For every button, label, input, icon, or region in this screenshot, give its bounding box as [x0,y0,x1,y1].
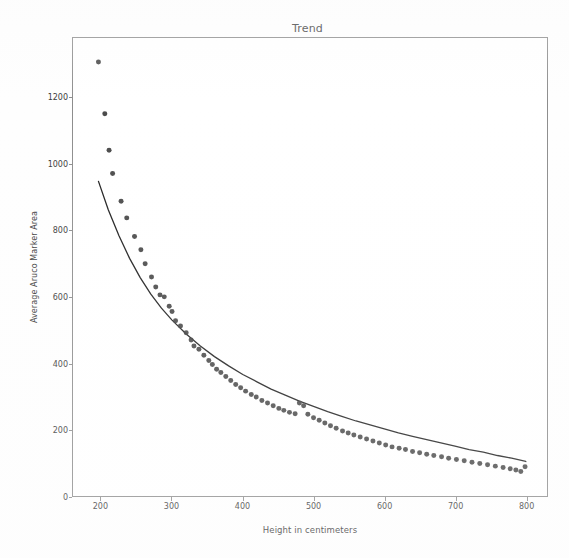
scatter-point [143,261,148,266]
scatter-point [501,465,506,470]
scatter-point [259,398,264,403]
scatter-point [184,330,189,335]
x-tick-mark [100,497,101,501]
x-tick-label: 800 [507,502,547,511]
scatter-point [351,432,356,437]
scatter-point [124,215,129,220]
scatter-point [470,460,475,465]
scatter-point [508,466,513,471]
scatter-point [370,438,375,443]
scatter-point [223,374,228,379]
y-axis-tick-labels: 020040060080010001200 [22,0,68,558]
y-tick-label: 400 [28,359,68,368]
y-tick-label: 1000 [28,159,68,168]
scatter-point [149,274,154,279]
scatter-point [196,347,201,352]
scatter-point [254,395,259,400]
scatter-point [439,454,444,459]
scatter-point [328,423,333,428]
scatter-point [311,415,316,420]
scatter-point [214,367,219,372]
scatter-point [233,382,238,387]
x-tick-label: 500 [294,502,334,511]
chart-figure: Trend Average Aruco Marker Area 02004006… [0,0,569,558]
scatter-point [218,370,223,375]
scatter-point [238,385,243,390]
scatter-point [446,456,451,461]
x-tick-mark [527,497,528,501]
scatter-point [477,461,482,466]
y-tick-mark [69,497,73,498]
scatter-point [383,442,388,447]
scatter-point [364,436,369,441]
scatter-point [162,294,167,299]
x-tick-label: 600 [365,502,405,511]
chart-title: Trend [0,22,569,35]
scatter-point [377,440,382,445]
x-tick-label: 200 [80,502,120,511]
scatter-point [424,452,429,457]
scatter-point [390,444,395,449]
scatter-point [110,171,115,176]
scatter-point [340,428,345,433]
scatter-point [301,403,306,408]
scatter-point [417,450,422,455]
scatter-point [189,338,194,343]
scatter-point [281,408,286,413]
x-axis-tick-labels: 200300400500600700800 [0,502,569,518]
chart-title-text: Trend [292,22,323,35]
y-tick-label: 1200 [28,93,68,102]
scatter-point [153,284,158,289]
plot-axes-frame [72,37,548,497]
scatter-point [485,462,490,467]
y-tick-label: 600 [28,293,68,302]
y-tick-label: 200 [28,426,68,435]
x-tick-mark [456,497,457,501]
x-tick-mark [385,497,386,501]
scatter-point [305,412,310,417]
x-tick-mark [243,497,244,501]
scatter-point [178,324,183,329]
scatter-point [518,469,523,474]
scatter-point [523,464,528,469]
scatter-point [201,353,206,358]
scatter-points-group [96,59,528,474]
scatter-point [431,453,436,458]
scatter-point [119,199,124,204]
x-tick-label: 700 [436,502,476,511]
scatter-point [228,378,233,383]
scatter-point [102,111,107,116]
scatter-point [334,426,339,431]
scatter-point [410,449,415,454]
x-tick-label: 300 [151,502,191,511]
scatter-point [462,458,467,463]
x-tick-label: 400 [223,502,263,511]
scatter-point [493,464,498,469]
scatter-point [173,318,178,323]
scatter-point [403,447,408,452]
scatter-point [132,234,137,239]
scatter-point [287,410,292,415]
scatter-point [170,309,175,314]
scatter-point [276,406,281,411]
scatter-point [206,358,211,363]
scatter-point [271,403,276,408]
scatter-point [454,457,459,462]
scatter-point [397,446,402,451]
scatter-point [346,430,351,435]
scatter-point [513,468,518,473]
scatter-point [210,362,215,367]
scatter-point [107,148,112,153]
scatter-point [138,247,143,252]
plot-svg [73,38,547,496]
y-tick-label: 0 [28,493,68,502]
scatter-point [293,411,298,416]
scatter-point [167,304,172,309]
scatter-point [265,401,270,406]
scatter-point [297,401,302,406]
scatter-point [317,418,322,423]
plot-surface [73,38,547,496]
scatter-point [358,434,363,439]
x-tick-mark [314,497,315,501]
scatter-point [191,343,196,348]
